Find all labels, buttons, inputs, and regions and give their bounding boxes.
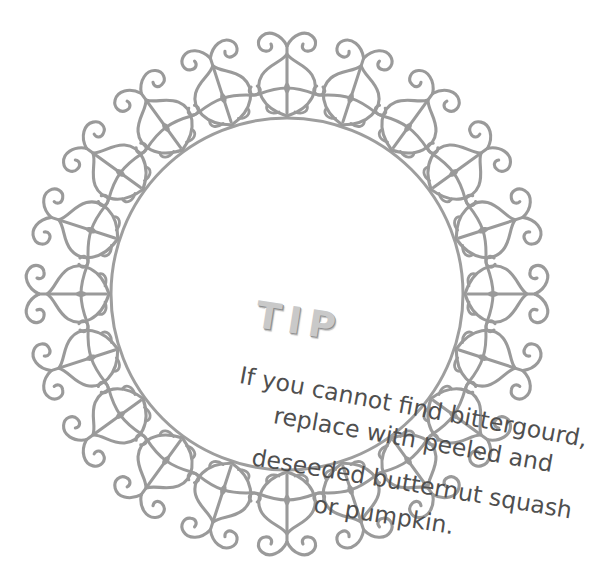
filigree-scroll-ornament — [249, 33, 324, 116]
filigree-scroll-ornament — [26, 256, 109, 331]
filigree-scroll-ornament — [465, 256, 548, 331]
tip-content-area: TIP If you cannot find bittergourd, repl… — [108, 118, 462, 470]
tip-heading: TIP — [253, 293, 346, 349]
